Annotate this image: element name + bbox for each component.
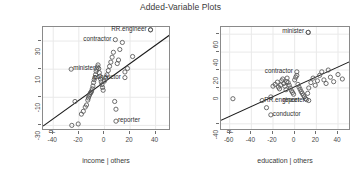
x-tick-label: 40 xyxy=(143,136,167,143)
point-label-minister: minister xyxy=(73,64,95,71)
panel-education: prestige | others 6040200-40-60-40-20020… xyxy=(180,0,360,179)
x-tick-label: -60 xyxy=(217,136,241,143)
x-tick-label: -40 xyxy=(40,136,64,143)
x-tick-mark xyxy=(155,131,156,134)
x-tick-label: 20 xyxy=(303,136,327,143)
x-tick-label: 20 xyxy=(117,136,141,143)
right-x-axis-label: education | others xyxy=(220,157,350,164)
x-tick-mark xyxy=(103,131,104,134)
point-label-conductor: conductor xyxy=(93,73,121,80)
avplots-figure: Added-Variable Plots prestige | others 3… xyxy=(0,0,361,179)
panel-income: prestige | others 3010-10-30-40-2002040 … xyxy=(0,0,180,179)
y-tick-label: -10 xyxy=(34,96,41,120)
point-label-reporter: reporter xyxy=(118,116,140,123)
x-tick-mark xyxy=(250,131,251,134)
point-label-conductor: conductor xyxy=(273,110,301,117)
x-tick-label: -40 xyxy=(238,136,262,143)
point-label-contractor: contractor xyxy=(265,67,293,74)
x-tick-label: -20 xyxy=(260,136,284,143)
x-tick-mark xyxy=(129,131,130,134)
x-tick-mark xyxy=(52,131,53,134)
left-x-axis-label: income | others xyxy=(42,157,170,164)
x-tick-mark xyxy=(337,131,338,134)
x-tick-label: 0 xyxy=(91,136,115,143)
x-tick-mark xyxy=(272,131,273,134)
point-label-minister: minister xyxy=(282,27,304,34)
y-tick-label: 30 xyxy=(34,40,41,64)
y-tick-label: 10 xyxy=(34,68,41,92)
x-tick-mark xyxy=(294,131,295,134)
point-label-rr-engineer: RR.engineer xyxy=(111,25,146,32)
x-tick-label: 0 xyxy=(282,136,306,143)
x-tick-mark xyxy=(78,131,79,134)
point-label-contractor: contractor xyxy=(83,35,111,42)
x-tick-mark xyxy=(229,131,230,134)
x-tick-mark xyxy=(315,131,316,134)
point-label-reporter: reporter xyxy=(283,96,305,103)
x-tick-label: 40 xyxy=(325,136,349,143)
y-tick-label: 0 xyxy=(212,86,219,110)
x-tick-label: -20 xyxy=(66,136,90,143)
